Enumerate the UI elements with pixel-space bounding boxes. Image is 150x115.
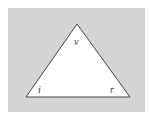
triangle	[26, 24, 130, 97]
triangle-diagram: v i r	[0, 0, 150, 115]
vertex-label-i: i	[38, 84, 41, 95]
vertex-label-r: r	[110, 84, 114, 95]
vertex-label-v: v	[74, 36, 79, 47]
